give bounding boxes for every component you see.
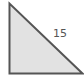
right-triangle — [10, 4, 83, 74]
hypotenuse-label: 15 — [53, 27, 67, 40]
triangle-figure: 15 — [0, 0, 84, 76]
triangle-diagram: 15 — [0, 0, 84, 76]
